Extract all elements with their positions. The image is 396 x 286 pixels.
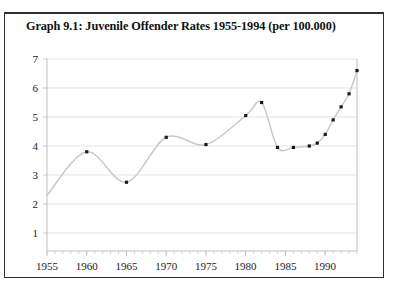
data-point-1960 (85, 150, 88, 153)
x-tick-label-1965: 1965 (116, 260, 139, 272)
x-tick-label-1990: 1990 (314, 260, 337, 272)
data-point-1992 (340, 105, 343, 108)
y-tick-label-4: 4 (33, 140, 39, 152)
data-point-1984 (276, 146, 279, 149)
x-tick-label-1960: 1960 (76, 260, 99, 272)
data-point-1994 (355, 69, 358, 72)
x-tick-label-1985: 1985 (274, 260, 297, 272)
y-tick-label-1: 1 (33, 227, 39, 239)
data-point-1975 (204, 143, 207, 146)
data-point-1989 (316, 142, 319, 145)
x-tick-label-1955: 1955 (36, 260, 59, 272)
chart-plot-area: 7 6 5 4 3 2 1 1955 1960 1965 1970 1975 1… (0, 0, 396, 286)
series-line-juvenile-offender-rate (47, 71, 357, 196)
x-axis-major-ticks (47, 251, 325, 256)
data-point-1986 (292, 146, 295, 149)
x-axis-labels: 1955 1960 1965 1970 1975 1980 1985 1990 (36, 260, 337, 272)
y-tick-label-6: 6 (33, 82, 39, 94)
data-point-1991 (332, 118, 335, 121)
x-tick-label-1970: 1970 (155, 260, 178, 272)
x-tick-label-1980: 1980 (235, 260, 258, 272)
data-point-1990 (324, 133, 327, 136)
data-point-1982 (260, 101, 263, 104)
y-tick-label-5: 5 (33, 111, 39, 123)
data-point-1980 (244, 114, 247, 117)
y-axis-ticks (43, 59, 47, 233)
y-tick-label-2: 2 (33, 198, 39, 210)
data-point-1993 (347, 92, 350, 95)
series-markers (85, 69, 358, 184)
x-tick-label-1975: 1975 (195, 260, 218, 272)
y-tick-label-3: 3 (33, 169, 39, 181)
data-point-1970 (165, 136, 168, 139)
data-point-1988 (308, 144, 311, 147)
data-point-1965 (125, 181, 128, 184)
y-axis-labels: 7 6 5 4 3 2 1 (33, 53, 39, 239)
chart-svg: 7 6 5 4 3 2 1 1955 1960 1965 1970 1975 1… (0, 0, 396, 286)
y-tick-label-7: 7 (33, 53, 39, 65)
